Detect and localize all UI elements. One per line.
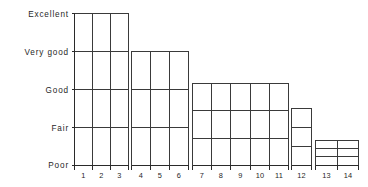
x-axis-label-4: 4	[139, 171, 143, 180]
x-axis	[75, 166, 359, 170]
x-axis-labels: 1 2 3 4 5 6 7 8 9 10 11 12 13 14	[81, 171, 352, 180]
x-axis-label-2: 2	[99, 171, 103, 180]
bar-group-b	[132, 52, 189, 166]
x-axis-label-8: 8	[219, 171, 223, 180]
bar-group-d-outline	[292, 109, 312, 166]
x-axis-label-5: 5	[158, 171, 162, 180]
y-axis-label-excellent: Excellent	[28, 10, 69, 19]
y-axis-label-good: Good	[46, 86, 69, 95]
bar-group-c	[193, 84, 289, 166]
bar-group-a	[75, 14, 129, 166]
bar-group-d	[292, 109, 312, 166]
x-axis-label-10: 10	[256, 171, 265, 180]
x-axis-label-12: 12	[297, 171, 306, 180]
staircase-histogram: Excellent Very good Good Fair Poor	[0, 0, 368, 187]
x-axis-label-9: 9	[238, 171, 242, 180]
x-axis-label-6: 6	[177, 171, 181, 180]
bar-group-b-outline	[132, 52, 189, 166]
bar-group-e	[316, 141, 359, 166]
y-axis-label-very-good: Very good	[24, 48, 69, 57]
chart-container: Excellent Very good Good Fair Poor	[0, 0, 368, 187]
x-axis-label-3: 3	[117, 171, 121, 180]
y-axis-labels: Excellent Very good Good Fair Poor	[24, 10, 69, 170]
y-axis-label-poor: Poor	[48, 161, 69, 170]
x-axis-label-7: 7	[200, 171, 204, 180]
y-axis-label-fair: Fair	[51, 124, 69, 133]
x-axis-label-13: 13	[322, 171, 331, 180]
x-axis-label-11: 11	[275, 171, 283, 180]
x-axis-label-1: 1	[81, 171, 85, 180]
y-axis	[72, 14, 75, 166]
bar-group-c-outline	[193, 84, 289, 166]
x-axis-label-14: 14	[344, 171, 353, 180]
